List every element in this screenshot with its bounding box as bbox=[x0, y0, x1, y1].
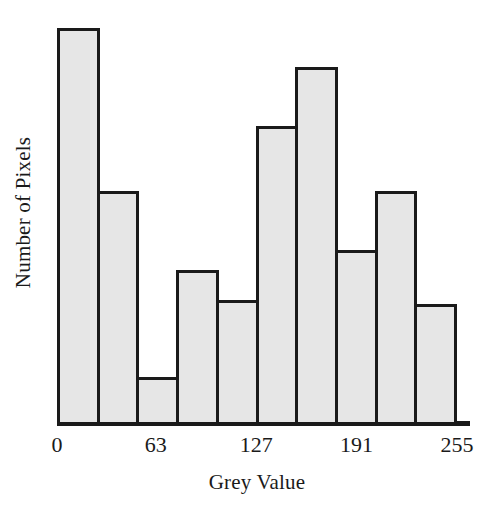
histogram-bar bbox=[176, 270, 219, 422]
histogram-bar bbox=[256, 126, 299, 422]
histogram-bar bbox=[414, 304, 457, 422]
x-axis-tick: 0 bbox=[52, 432, 63, 458]
histogram-bar bbox=[335, 250, 378, 423]
histogram-figure: Number of Pixels 063127191255 Grey Value bbox=[0, 0, 502, 509]
x-axis-label-text: Grey Value bbox=[209, 470, 306, 494]
x-axis-tick: 63 bbox=[145, 432, 167, 458]
plot-area bbox=[57, 28, 470, 427]
histogram-bar bbox=[57, 28, 100, 422]
x-axis-tick-labels: 063127191255 bbox=[57, 432, 470, 462]
histogram-bar bbox=[375, 191, 418, 422]
histogram-bar bbox=[216, 300, 259, 422]
histogram-bar bbox=[97, 191, 140, 422]
y-axis-label: Number of Pixels bbox=[0, 0, 48, 425]
y-axis-label-text: Number of Pixels bbox=[12, 137, 37, 288]
x-axis-label: Grey Value bbox=[57, 470, 457, 495]
x-axis-tick: 127 bbox=[240, 432, 273, 458]
histogram-bar bbox=[136, 377, 179, 422]
x-axis-tick: 255 bbox=[441, 432, 474, 458]
histogram-bar bbox=[295, 67, 338, 422]
histogram-bars bbox=[57, 28, 457, 422]
x-axis-tick: 191 bbox=[340, 432, 373, 458]
